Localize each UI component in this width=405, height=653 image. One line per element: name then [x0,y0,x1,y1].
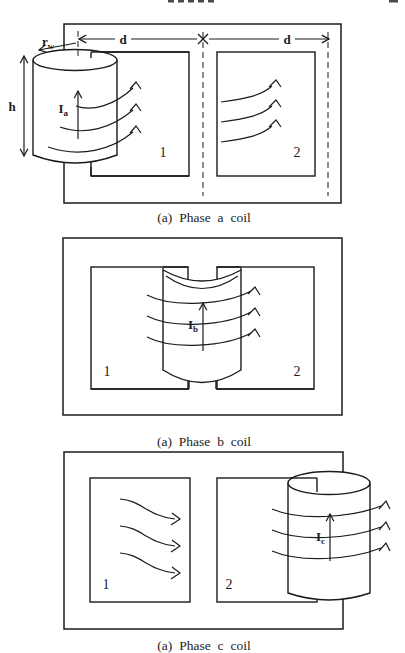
flux-arrows-pole2-a [221,80,281,142]
pole-2-label-a: 2 [294,145,301,160]
phase-c-diagram: Ic 1 2 (a) Phase c coil [64,452,390,653]
phase-b-diagram: Ib 1 2 (a) Phase b coil [63,238,342,449]
phase-a-diagram: Ia rw h d d 1 2 (a) Phase a coil [8,24,341,225]
pole-2-label-c: 2 [226,577,233,592]
height-label-a: h [8,99,16,114]
caption-a: (a) Phase a coil [157,210,251,225]
caption-c: (a) Phase c coil [157,638,251,653]
dimension-line-d [79,34,329,44]
phase-coil-figure: Ia rw h d d 1 2 (a) Phase a coil [0,0,405,653]
radius-label-a: rw [42,34,55,51]
scanned-figure-page: Ia rw h d d 1 2 (a) Phase a coil [0,0,405,653]
pole-1-label-a: 1 [160,145,167,160]
flux-arrows-pole1-c [120,499,180,579]
coil-cylinder-c [288,472,370,601]
pole-1-label-c: 1 [103,577,110,592]
page-header-fragment [168,0,398,3]
d-label-right-a: d [283,32,291,47]
caption-b: (a) Phase b coil [157,434,251,449]
pole-2-label-b: 2 [294,364,301,379]
d-label-left-a: d [119,32,127,47]
pole-1-label-b: 1 [104,364,111,379]
